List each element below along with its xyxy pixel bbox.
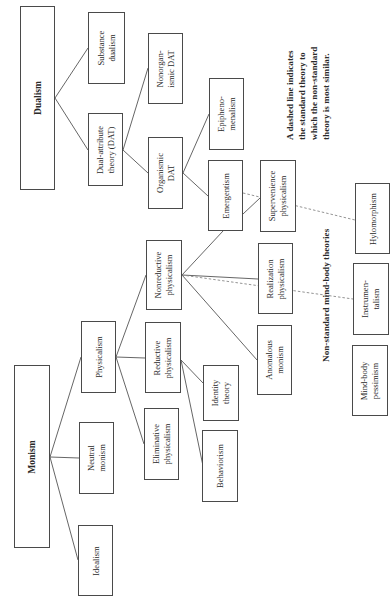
edge-nonreductive-anomalous (182, 275, 257, 360)
node-dualism: Dualism (20, 6, 55, 190)
node-label: Behaviorism (215, 444, 226, 488)
node-label-line: Reductive (152, 340, 162, 375)
node-label-line: monism (97, 444, 107, 472)
node-label-line: physicalism (162, 423, 172, 464)
node-label-line: Supervenience (267, 171, 277, 222)
edge-nonreductive-emergentism (182, 231, 223, 275)
edge-dat-nonorganismic (123, 68, 148, 150)
node-neutral-monism: Neutralmonism (79, 422, 114, 494)
edge-physicalism-nonreductive (116, 275, 146, 357)
node-nonreductive-physicalism: Nonreductivephysicalism (146, 240, 182, 310)
node-label-line: Mind-body (359, 361, 369, 400)
node-label: Dualism (32, 81, 43, 115)
edge-physicalism-reductive (116, 357, 145, 358)
node-label: Hylomorphism (367, 192, 378, 244)
node-label-line: physicalism (276, 258, 286, 299)
node-idealism: Idealism (78, 525, 113, 596)
node-label: Physicalism (93, 336, 104, 378)
node-label-line: theory (DAT) (106, 126, 116, 173)
edge-organismic-epiphenomenalism (183, 114, 209, 173)
node-dual-attribute-theory: Dual-attributetheory (DAT) (88, 113, 123, 186)
node-label-line: Identity (210, 380, 220, 407)
node-label-line: ismic DAT (166, 50, 176, 87)
node-label: Emergentism (220, 173, 231, 219)
node-label: Idealism (90, 546, 101, 576)
node-label-line: dualism (107, 34, 117, 61)
node-label-line: Epipheno- (216, 96, 226, 132)
node-label-line: physicalism (163, 337, 173, 378)
node-label-line: Nonorgan- (155, 50, 165, 87)
edge-monism-idealism (50, 457, 78, 560)
node-physicalism: Physicalism (81, 321, 116, 393)
node-monism: Monism (14, 365, 50, 548)
note-line: the standard theory to (296, 47, 308, 140)
note-line: theory is most similar. (320, 47, 332, 140)
node-epiphenomenalism: Epipheno-menalism (209, 78, 244, 150)
node-mind-body-pessimism: Mind-bodypessimism (352, 345, 388, 416)
node-label-line: Realization (265, 259, 275, 298)
node-label-line: DAT (166, 165, 176, 182)
node-label-line: pessimism (370, 362, 380, 398)
node-identity-theory: Identitytheory (203, 365, 239, 421)
connector-lines (0, 0, 391, 614)
node-label-line: Neutral (86, 445, 96, 471)
edge-nonreductive-realization (182, 275, 258, 279)
node-eliminative-physicalism: Eliminativephysicalism (144, 408, 179, 480)
node-substance-dualism: Substancedualism (88, 12, 125, 84)
node-label-line: Instrumen- (360, 280, 370, 318)
node-label-line: Substance (96, 31, 106, 66)
edge-dualism-dat (55, 98, 88, 150)
edge-reductive-behaviorism (181, 360, 203, 466)
node-behaviorism: Behaviorism (202, 430, 238, 502)
edge-emergentism-supervenience (243, 198, 260, 214)
node-label-line: menalism (227, 97, 237, 130)
note-line: A dashed line indicates (284, 47, 296, 140)
dashed-line-note: A dashed line indicates the standard the… (284, 47, 332, 140)
node-emergentism: Emergentism (208, 160, 243, 231)
nonstandard-heading: Non-standard mind-body theories (320, 229, 332, 362)
edge-monism-physicalism (50, 357, 81, 457)
node-nonorganismic-dat: Nonorgan-ismic DAT (148, 33, 183, 104)
node-organismic-dat: OrganismicDAT (148, 137, 183, 209)
node-label-line: monism (275, 346, 285, 374)
edge-dat-organismic (123, 150, 148, 173)
node-instrumentalism: Instrumen-talism (353, 263, 389, 335)
node-label-line: physicalism (164, 254, 174, 295)
node-label: Monism (27, 440, 38, 473)
node-supervenience-physicalism: Superveniencephysicalism (260, 160, 296, 232)
node-label-line: physicalism (278, 175, 288, 216)
node-label-line: Anomalous (264, 340, 274, 380)
edge-dualism-substance (55, 48, 88, 98)
node-label-line: theory (221, 382, 231, 404)
edge-reductive-identity (181, 360, 203, 383)
node-label-line: Organismic (155, 153, 165, 193)
edge-physicalism-eliminative (116, 357, 144, 444)
node-reductive-physicalism: Reductivephysicalism (145, 322, 181, 393)
node-label-line: Dual-attribute (95, 125, 105, 173)
edge-organismic-emergentism (183, 173, 208, 196)
node-label-line: Nonreductive (153, 252, 163, 299)
edge-monism-neutral (50, 457, 79, 458)
node-hylomorphism: Hylomorphism (355, 183, 390, 254)
node-label-line: talism (371, 289, 381, 310)
nonstandard-heading-text: Non-standard mind-body theories (320, 229, 332, 362)
note-line: which the non-standard (308, 47, 320, 140)
node-realization-physicalism: Realizationphysicalism (258, 243, 293, 314)
node-anomalous-monism: Anomalousmonism (257, 325, 292, 395)
node-label-line: Eliminative (151, 424, 161, 464)
